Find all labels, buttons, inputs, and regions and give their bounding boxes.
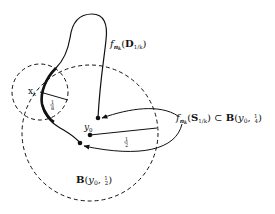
diagram-canvas: fnk(D1/k) fnk(S1/k) ⊂ B(y0, 14) B(y0, 12… — [0, 0, 275, 214]
image-set-label: fnk(D1/k) — [109, 38, 146, 51]
lower-image-point — [78, 141, 83, 146]
radius-line-big — [90, 128, 157, 135]
y0-point — [88, 133, 93, 138]
xk-label: xk — [28, 86, 37, 97]
big-ball-label: B(y0, 12) — [76, 174, 112, 186]
radius-big-den: 2 — [125, 142, 128, 148]
y0-label: y0 — [83, 122, 93, 133]
arrow-to-upper-point — [102, 109, 178, 118]
arrow-to-lower-point — [84, 124, 182, 151]
sphere-map-label: fnk(S1/k) ⊂ B(y0, 14) — [175, 112, 262, 125]
image-curve — [42, 14, 107, 143]
upper-image-point — [96, 116, 101, 121]
radius-small-den: 8 — [51, 105, 54, 111]
